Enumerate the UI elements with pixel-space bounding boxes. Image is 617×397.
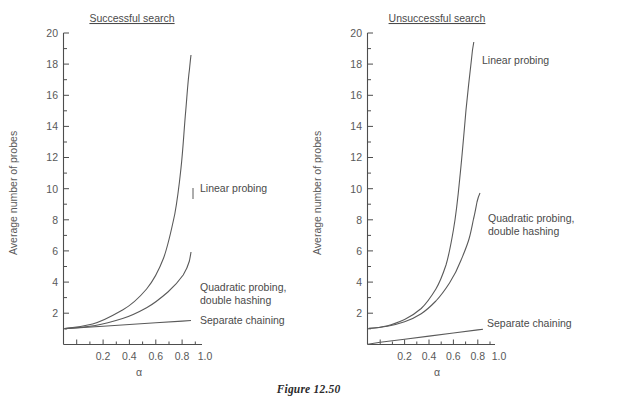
y-tick-label: 18 [350,58,362,70]
curve-linear-probing-unsuccessful [369,42,474,329]
x-tick-label: 1.0 [198,350,213,362]
curve-label-line-1: Quadratic probing, [200,281,286,293]
curve-label-quadratic-probing-unsuccessful: Quadratic probing, double hashing [488,212,577,237]
y-tick-label: 2 [52,307,58,319]
y-tick-label: 6 [356,245,362,257]
y-tick-label: 14 [350,120,362,132]
curve-quadratic-probing-unsuccessful [369,193,480,328]
x-tick-label: 0.8 [175,350,190,362]
y-tick-label: 20 [46,27,58,39]
x-ticks-left [77,340,196,345]
curve-label-line-1: Quadratic probing, [488,212,574,224]
curve-label-line-2: double hashing [488,225,559,237]
y-axis-title-left: Average number of probes [7,131,19,255]
y-axis-title-right: Average number of probes [311,131,323,255]
y-tick-label: 18 [46,58,58,70]
y-tick-labels-left: 20 18 16 14 12 10 8 6 4 2 [46,27,58,319]
y-tick-label: 16 [350,89,362,101]
curve-separate-chaining-successful [65,321,191,329]
curve-label-separate-chaining-successful: Separate chaining [200,314,285,326]
x-tick-label: 0.2 [96,350,111,362]
x-tick-label: 0.6 [148,350,163,362]
y-ticks-right [368,33,374,329]
panel-successful-search: Successful search [7,12,289,378]
y-ticks-left [64,33,70,329]
panel-title-unsuccessful-search: Unsuccessful search [389,12,486,24]
y-tick-label: 10 [350,183,362,195]
curve-label-line-2: double hashing [200,294,271,306]
y-tick-label: 10 [46,183,58,195]
y-tick-label: 2 [356,307,362,319]
panel-title-successful-search: Successful search [89,12,174,24]
y-tick-label: 4 [356,276,362,288]
y-tick-label: 4 [52,276,58,288]
x-tick-labels-left: 0.2 0.4 0.6 0.8 1.0 [96,350,213,362]
figure-caption: Figure 12.50 [0,381,617,397]
curve-label-separate-chaining-unsuccessful: Separate chaining [487,317,572,329]
y-tick-labels-right: 20 18 16 14 12 10 8 6 4 2 [350,27,362,319]
x-tick-label: 0.2 [397,350,412,362]
x-tick-label: 0.6 [446,350,461,362]
x-axis-title-right: α [434,366,440,378]
x-tick-labels-right: 0.2 0.4 0.6 0.8 1.0 [397,350,506,362]
hash-table-performance-figure: Successful search [0,0,617,397]
panel-unsuccessful-search: Unsuccessful search [311,12,577,378]
curve-label-linear-probing-unsuccessful: Linear probing [482,54,549,66]
x-axis-title-left: α [136,366,142,378]
y-tick-label: 20 [350,27,362,39]
curve-label-quadratic-probing-successful: Quadratic probing, double hashing [200,281,289,306]
x-tick-label: 0.4 [122,350,137,362]
y-tick-label: 8 [52,214,58,226]
y-tick-label: 16 [46,89,58,101]
x-tick-label: 0.4 [422,350,437,362]
x-tick-label: 0.8 [470,350,485,362]
curve-quadratic-probing-successful [65,252,191,329]
y-tick-label: 6 [52,245,58,257]
y-tick-label: 8 [356,214,362,226]
y-tick-label: 14 [46,120,58,132]
y-tick-label: 12 [350,151,362,163]
curve-label-linear-probing-successful: Linear probing [200,182,267,194]
x-tick-label: 1.0 [492,350,507,362]
y-tick-label: 12 [46,151,58,163]
